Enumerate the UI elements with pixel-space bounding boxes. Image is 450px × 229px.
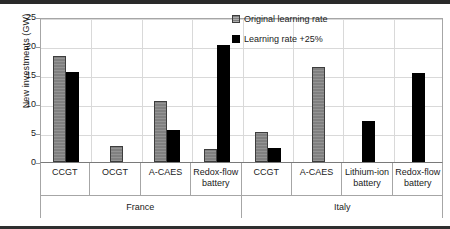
y-axis-tickmark-15 (36, 76, 40, 77)
x-category-label: Redox-flow battery (393, 167, 443, 189)
y-axis-tick-15: 15 (20, 71, 36, 80)
gridline-horizontal (41, 106, 442, 107)
x-category-label: Redox-flow battery (191, 167, 240, 189)
x-category-cell-6: Lithium-ion battery (342, 163, 392, 196)
x-category-label: Lithium-ion battery (342, 167, 391, 189)
y-axis-tickmark-10 (36, 105, 40, 106)
bar-original-learning-rate-1 (110, 146, 123, 162)
gridline-vertical (91, 19, 92, 162)
legend-item-0: Original learning rate (232, 14, 392, 24)
x-category-cell-1: OCGT (90, 163, 140, 196)
y-axis-tick-labels: 0510152025 (18, 14, 36, 163)
x-category-cell-7: Redox-flow battery (393, 163, 443, 196)
gridline-vertical (192, 19, 193, 162)
legend: Original learning rateLearning rate +25% (232, 14, 392, 54)
bar-original-learning-rate-4 (255, 132, 268, 162)
legend-swatch-icon-0 (232, 15, 240, 23)
gridline-horizontal (41, 77, 442, 78)
x-group-label: France (126, 202, 154, 212)
x-category-cell-4: CCGT (242, 163, 292, 196)
axis-right-extension (442, 163, 443, 218)
bar-chart: New investments (GW) 0510152025 Original… (0, 4, 450, 226)
y-axis-tickmark-20 (36, 47, 40, 48)
bar-original-learning-rate-2 (154, 101, 167, 162)
x-category-label: A-CAES (300, 167, 334, 178)
x-group-cell-0: France (40, 196, 242, 218)
bar-original-learning-rate-0 (53, 56, 66, 162)
y-axis-tick-20: 20 (20, 42, 36, 51)
bar-learning-rate-plus-25-6 (362, 121, 375, 162)
y-axis-tick-10: 10 (20, 100, 36, 109)
x-category-cell-2: A-CAES (141, 163, 191, 196)
x-category-label: OCGT (102, 167, 128, 178)
x-category-cell-3: Redox-flow battery (191, 163, 241, 196)
x-category-label: CCGT (253, 167, 279, 178)
y-axis-tick-5: 5 (20, 129, 36, 138)
legend-label-1: Learning rate +25% (244, 34, 323, 44)
x-axis-category-labels: CCGTOCGTA-CAESRedox-flow batteryCCGTA-CA… (40, 163, 443, 196)
x-group-label: Italy (334, 202, 351, 212)
gridline-vertical (394, 19, 395, 162)
legend-swatch-icon-1 (232, 35, 240, 43)
bottom-border-strip (0, 226, 450, 229)
x-category-cell-5: A-CAES (292, 163, 342, 196)
y-axis-tick-0: 0 (20, 158, 36, 167)
bar-learning-rate-plus-25-0 (66, 72, 79, 162)
bar-learning-rate-plus-25-4 (268, 148, 281, 163)
axis-left-extension (40, 163, 41, 218)
x-category-cell-0: CCGT (40, 163, 90, 196)
y-axis-tickmark-5 (36, 134, 40, 135)
y-axis-tickmark-25 (36, 18, 40, 19)
y-axis-tick-25: 25 (20, 13, 36, 22)
bar-original-learning-rate-5 (312, 67, 325, 162)
gridline-horizontal (41, 135, 442, 136)
bar-learning-rate-plus-25-3 (217, 45, 230, 162)
x-axis-group-labels: FranceItaly (40, 196, 443, 218)
chart-screenshot: New investments (GW) 0510152025 Original… (0, 0, 450, 229)
bar-original-learning-rate-3 (204, 149, 217, 162)
x-group-cell-1: Italy (242, 196, 444, 218)
bar-learning-rate-plus-25-7 (412, 73, 425, 162)
gridline-vertical (142, 19, 143, 162)
bar-learning-rate-plus-25-2 (167, 130, 180, 162)
y-axis-tickmark-0 (36, 163, 40, 164)
legend-item-1: Learning rate +25% (232, 34, 392, 44)
legend-label-0: Original learning rate (244, 14, 328, 24)
x-category-label: CCGT (52, 167, 78, 178)
x-category-label: A-CAES (149, 167, 183, 178)
